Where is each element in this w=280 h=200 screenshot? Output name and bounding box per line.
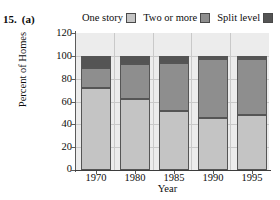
bar-segment-two-or-more xyxy=(237,59,267,115)
chart-legend: One story Two or more Split level xyxy=(82,11,273,25)
legend-entry-split-level: Split level xyxy=(217,13,273,24)
x-axis-line xyxy=(75,170,271,171)
legend-entry-two-or-more: Two or more xyxy=(143,13,210,24)
legend-label-two-or-more: Two or more xyxy=(143,13,197,24)
bar-segment-one-story xyxy=(81,88,111,170)
legend-swatch-one-story xyxy=(126,13,136,23)
bar-segment-two-or-more xyxy=(120,64,150,99)
bar-segment-one-story xyxy=(237,115,267,170)
y-tick-label: 100 xyxy=(46,51,72,62)
x-tick-label-1990: 1990 xyxy=(193,172,233,183)
bars-container xyxy=(76,33,269,170)
x-axis-title: Year xyxy=(60,183,275,194)
bar-segment-one-story xyxy=(120,99,150,170)
bar-segment-split-level xyxy=(120,56,150,64)
legend-label-split-level: Split level xyxy=(217,13,260,24)
bar-segment-split-level xyxy=(159,56,189,63)
bar-segment-split-level xyxy=(81,56,111,69)
bar-segment-two-or-more xyxy=(159,63,189,111)
x-tick-label-1980: 1980 xyxy=(115,172,155,183)
bar-segment-two-or-more xyxy=(81,68,111,87)
bar-segment-one-story xyxy=(198,118,228,171)
y-tick-label: 0 xyxy=(46,164,72,175)
y-tick-label: 80 xyxy=(46,74,72,85)
y-tick-label: 120 xyxy=(46,28,72,39)
legend-swatch-split-level xyxy=(263,13,273,23)
bar-segment-two-or-more xyxy=(198,59,228,117)
y-axis-title: Percent of Homes xyxy=(17,20,28,120)
y-tick-label: 40 xyxy=(46,119,72,130)
y-tick-label: 20 xyxy=(46,142,72,153)
bar-segment-one-story xyxy=(159,111,189,170)
y-axis-ticks: 120 100 80 60 40 20 0 xyxy=(44,0,72,200)
legend-entry-one-story: One story xyxy=(82,13,136,24)
x-tick-label-1985: 1985 xyxy=(154,172,194,183)
x-tick-label-1970: 1970 xyxy=(76,172,116,183)
legend-swatch-two-or-more xyxy=(200,13,210,23)
y-axis-line xyxy=(75,31,76,172)
problem-number: 15. xyxy=(3,13,17,25)
y-tick-label: 60 xyxy=(46,97,72,108)
figure-stacked-bar-chart: 15.(a) One story Two or more Split level… xyxy=(0,0,280,200)
bar-segment-split-level xyxy=(237,56,267,59)
x-tick-label-1995: 1995 xyxy=(232,172,272,183)
legend-label-one-story: One story xyxy=(82,13,123,24)
bar-segment-split-level xyxy=(198,56,228,59)
